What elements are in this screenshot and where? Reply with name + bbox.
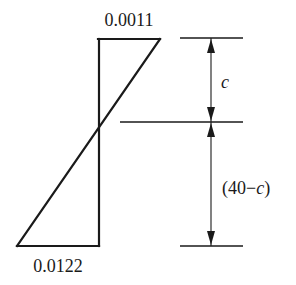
lower-dimension-close: )	[264, 178, 270, 199]
lower-dimension-var: c	[256, 178, 264, 198]
top-strain-label: 0.0011	[105, 10, 154, 30]
arrow-up-top-icon	[207, 39, 215, 53]
upper-dimension-label: c	[221, 72, 229, 92]
arrow-up-mid-icon	[207, 123, 215, 137]
strain-diagonal-line	[17, 39, 160, 246]
lower-dimension-open: (40	[222, 178, 246, 199]
lower-dimension-label: (40−c)	[222, 178, 270, 199]
arrow-down-bottom-icon	[207, 231, 215, 245]
bottom-strain-label: 0.0122	[33, 256, 83, 276]
arrow-down-mid-icon	[207, 107, 215, 121]
strain-profile	[17, 39, 160, 246]
lower-dimension-minus: −	[246, 178, 256, 198]
strain-diagram: 0.0011 0.0122 c (40−c)	[0, 0, 296, 285]
